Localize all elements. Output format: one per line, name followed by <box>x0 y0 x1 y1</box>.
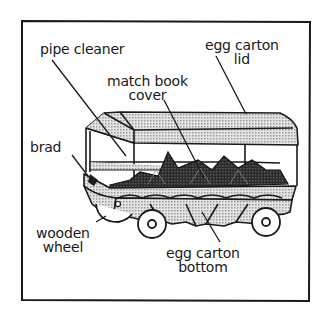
label-brad: brad <box>30 140 61 154</box>
label-egg-carton-lid: egg carton lid <box>205 38 279 66</box>
label-egg-carton-bottom: egg carton bottom <box>166 246 240 274</box>
canopy-lid <box>86 112 298 145</box>
wagon-diagram: pipe cleaner egg carton lid match book c… <box>0 0 331 321</box>
label-wooden-wheel: wooden wheel <box>36 226 90 254</box>
label-match-book-cover: match book cover <box>107 74 188 102</box>
cargo-match-book-covers <box>110 152 288 190</box>
label-pipe-cleaner: pipe cleaner <box>40 42 124 56</box>
